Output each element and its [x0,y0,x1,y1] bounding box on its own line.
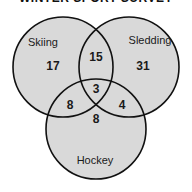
sledding-only-count: 31 [136,59,149,73]
sledding-hockey-count: 4 [119,98,126,112]
all-three-count: 3 [93,82,100,96]
skiing-only-count: 17 [46,59,59,73]
hockey-only-count: 8 [93,112,100,126]
skiing-hockey-count: 8 [67,98,74,112]
hockey-label: Hockey [77,154,114,166]
skiing-label: Skiing [28,36,58,48]
skiing-sledding-count: 15 [89,50,102,64]
sledding-label: Sledding [129,34,172,46]
